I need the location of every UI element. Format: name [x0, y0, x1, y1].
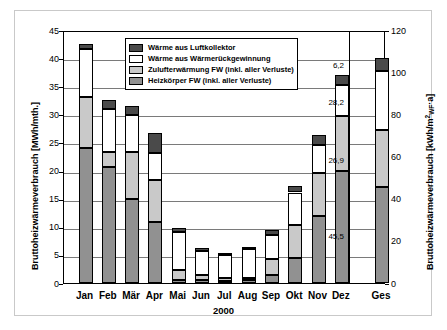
bar-segment-waermerueckgewinnung [218, 255, 232, 277]
bar-segment-luftkollektor [125, 106, 139, 116]
y-tick-label-left: 10 [37, 223, 59, 232]
y-tick-label-right: 20 [391, 237, 401, 246]
y-tick-label-left: 15 [37, 195, 59, 204]
bar-segment-luftkollektor [195, 248, 209, 251]
y-tick-label-right: 100 [391, 69, 406, 78]
bar-segment-zulufterwaermung [148, 180, 162, 222]
total-value-zulufterwaermung: 26,9 [318, 157, 344, 165]
bar-segment-luftkollektor [375, 58, 389, 71]
bar-segment-waermerueckgewinnung [148, 153, 162, 181]
y-axis-left-title: Bruttoheizwärmeverbrauch [MWh/mth.] [30, 102, 40, 270]
bar-segment-heizkoerper [125, 199, 139, 283]
bar-segment-zulufterwaermung [172, 270, 186, 280]
bar-segment-luftkollektor [288, 186, 302, 192]
bar-segment-luftkollektor [79, 44, 93, 49]
bar-segment-zulufterwaermung [79, 97, 93, 148]
legend-swatch-luftkollektor [129, 44, 143, 52]
y-tick-label-right: 0 [391, 280, 396, 289]
bar-segment-waermerueckgewinnung [288, 193, 302, 226]
bar-segment-heizkoerper [335, 171, 349, 283]
y-tick-label-right: 120 [391, 27, 406, 36]
bar-segment-zulufterwaermung [265, 259, 279, 275]
y-tick-label-left: 20 [37, 167, 59, 176]
bar-segment-waermerueckgewinnung [102, 109, 116, 152]
bar-segment-waermerueckgewinnung [195, 251, 209, 275]
bar-segment-zulufterwaermung [218, 278, 232, 281]
y-tick-label-left: 40 [37, 55, 59, 64]
bar-segment-heizkoerper [195, 280, 209, 283]
bar-segment-heizkoerper [102, 167, 116, 283]
bar-jan [79, 30, 93, 283]
bar-segment-heizkoerper [375, 187, 389, 283]
legend-swatch-heizkoerper [129, 77, 143, 85]
bar-segment-waermerueckgewinnung [265, 235, 279, 259]
y-tick-mark-left [59, 284, 63, 285]
y-tick-label-left: 35 [37, 83, 59, 92]
bar-segment-luftkollektor [148, 133, 162, 153]
bar-segment-zulufterwaermung [375, 130, 389, 187]
total-value-luftkollektor: 6,2 [318, 62, 344, 70]
legend-label-heizkoerper: Heizkörper FW (inkl. aller Verluste) [148, 77, 271, 85]
y-tick-label-right: 40 [391, 195, 401, 204]
y-tick-label-right: 80 [391, 111, 401, 120]
bar-segment-waermerueckgewinnung [125, 115, 139, 152]
y-tick-label-left: 0 [37, 280, 59, 289]
bar-segment-luftkollektor [312, 135, 326, 145]
legend-swatch-zulufterwaermung [129, 66, 143, 74]
bar-segment-zulufterwaermung [242, 278, 256, 280]
y-axis-right-title-suffix: ·a] [425, 94, 435, 105]
bar-segment-zulufterwaermung [125, 152, 139, 199]
bar-segment-luftkollektor [218, 253, 232, 256]
bar-segment-heizkoerper [172, 280, 186, 283]
legend: Wärme aus Luftkollektor Wärme aus Wärmer… [125, 38, 298, 90]
bar-segment-waermerueckgewinnung [375, 71, 389, 130]
total-value-heizkoerper: 45,5 [318, 233, 344, 241]
bar-segment-heizkoerper [218, 281, 232, 283]
y-tick-label-left: 30 [37, 111, 59, 120]
legend-item: Zulufterwärmung FW (inkl. aller Verluste… [129, 64, 293, 75]
bar-segment-zulufterwaermung [102, 152, 116, 167]
x-axis-title: 2000 [0, 305, 447, 316]
bar-segment-heizkoerper [79, 148, 93, 283]
legend-item: Heizkörper FW (inkl. aller Verluste) [129, 75, 293, 86]
bar-segment-heizkoerper [242, 280, 256, 283]
legend-item: Wärme aus Luftkollektor [129, 42, 293, 53]
y-axis-right-title-subscript: WF [428, 105, 435, 115]
bar-segment-waermerueckgewinnung [79, 49, 93, 97]
y-axis-right-title-prefix: Bruttoheizwärmeverbrauch [kWh/m [425, 118, 435, 270]
total-value-waermerueckgewinnung: 28,2 [318, 99, 344, 107]
x-tick-label-dez: Dez [324, 290, 358, 301]
y-axis-right-title-superscript: 2 [424, 115, 431, 119]
x-tick-label-ges: Ges [364, 290, 398, 301]
y-tick-label-right: 60 [391, 153, 401, 162]
legend-label-luftkollektor: Wärme aus Luftkollektor [148, 44, 236, 52]
bar-segment-luftkollektor [335, 75, 349, 85]
legend-item: Wärme aus Wärmerückgewinnung [129, 53, 293, 64]
bar-segment-waermerueckgewinnung [172, 232, 186, 270]
bar-segment-luftkollektor [242, 247, 256, 249]
y-tick-mark-right [385, 284, 389, 285]
y-tick-label-left: 25 [37, 139, 59, 148]
bar-segment-zulufterwaermung [195, 275, 209, 281]
total-column-separator [349, 32, 350, 283]
bar-segment-zulufterwaermung [288, 225, 302, 258]
chart-screenshot: Bruttoheizwärmeverbrauch [MWh/mth.] Brut… [0, 0, 447, 330]
bar-segment-zulufterwaermung [312, 173, 326, 216]
bar-segment-luftkollektor [172, 228, 186, 232]
bar-feb [102, 30, 116, 283]
bar-segment-heizkoerper [312, 216, 326, 283]
legend-label-waermerueckgewinnung: Wärme aus Wärmerückgewinnung [148, 55, 271, 63]
y-axis-right-title: Bruttoheizwärmeverbrauch [kWh/m2WF·a] [424, 94, 435, 270]
bar-segment-heizkoerper [288, 258, 302, 283]
y-tick-label-left: 45 [37, 27, 59, 36]
bar-segment-luftkollektor [102, 100, 116, 108]
bar-segment-heizkoerper [265, 275, 279, 283]
legend-label-zulufterwaermung: Zulufterwärmung FW (inkl. aller Verluste… [148, 66, 294, 74]
legend-swatch-waermerueckgewinnung [129, 55, 143, 63]
bar-segment-waermerueckgewinnung [242, 249, 256, 278]
y-tick-label-left: 5 [37, 251, 59, 260]
bar-segment-heizkoerper [148, 222, 162, 283]
bar-ges [375, 30, 389, 283]
bar-segment-luftkollektor [265, 230, 279, 236]
